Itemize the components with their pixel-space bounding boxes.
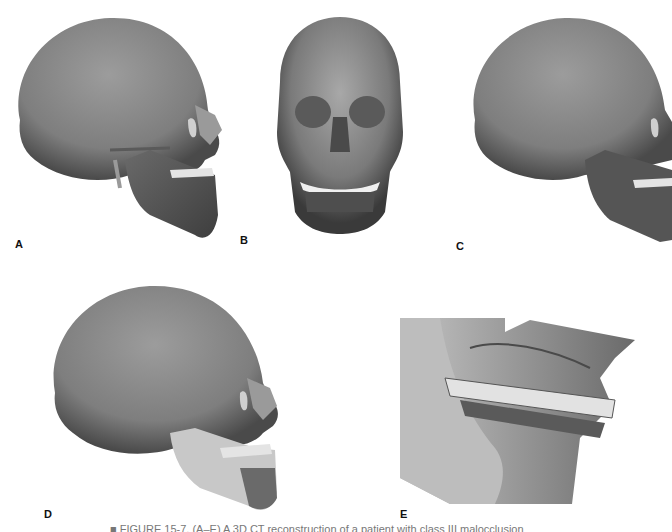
panel-label-b: B — [240, 234, 248, 246]
skull-lateral-image — [455, 10, 672, 245]
panel-b-frontal-skull: B — [265, 12, 415, 237]
panel-label-e: E — [400, 508, 407, 520]
panel-label-d: D — [44, 508, 52, 520]
panel-e-occlusion-closeup: E — [400, 318, 672, 518]
figure-caption: ■ FIGURE 15-7. (A–E) A 3D CT reconstruct… — [110, 521, 580, 532]
dentition-closeup-image — [400, 318, 672, 504]
panel-d-lateral-skull: D — [35, 278, 295, 518]
panel-label-c: C — [456, 240, 464, 252]
panel-label-a: A — [15, 238, 23, 250]
panel-c-lateral-skull: C — [455, 10, 672, 245]
skull-lateral-image — [0, 10, 240, 240]
skull-lateral-highlighted-mandible-image — [35, 278, 295, 513]
skull-frontal-image — [265, 12, 415, 237]
panel-a-lateral-skull: A — [0, 10, 240, 240]
